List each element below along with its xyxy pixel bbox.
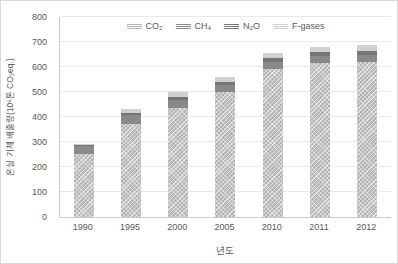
segment-F-gases [215, 77, 235, 81]
segment-CO₂ [74, 154, 94, 217]
x-tick-label: 2010 [248, 222, 295, 232]
x-axis: 1990199520002005201020112012 [59, 222, 390, 232]
stacked-bar-2010 [263, 17, 283, 217]
segment-F-gases [121, 109, 141, 113]
y-tick-label: 500 [32, 88, 47, 97]
segment-CH₄ [263, 62, 283, 69]
segment-CH₄ [215, 85, 235, 92]
x-axis-title: 년도 [59, 243, 390, 257]
x-tick-label: 1990 [59, 222, 106, 232]
segment-N₂O [263, 58, 283, 62]
y-tick-label: 300 [32, 138, 47, 147]
segment-F-gases [168, 92, 188, 97]
x-tick-label: 2011 [295, 222, 342, 232]
bar-slot-1990 [60, 17, 107, 217]
legend-label: N₂O [243, 21, 260, 31]
y-tick-label: 200 [32, 163, 47, 172]
y-tick-label: 600 [32, 63, 47, 72]
legend-label: CH₄ [194, 21, 211, 31]
bar-slot-2011 [296, 17, 343, 217]
segment-N₂O [310, 52, 330, 56]
y-axis: 0100200300400500600700800 [1, 17, 53, 217]
bar-slot-1995 [107, 17, 154, 217]
bar-slot-2005 [202, 17, 249, 217]
legend-swatch-icon [175, 23, 190, 29]
bars [60, 17, 391, 217]
segment-CH₄ [357, 55, 377, 62]
segment-N₂O [121, 113, 141, 116]
legend-item-CO₂: CO₂ [126, 21, 162, 31]
segment-CO₂ [121, 124, 141, 217]
y-tick-label: 100 [32, 188, 47, 197]
segment-CO₂ [310, 63, 330, 217]
ghg-emissions-chart: 온실 기체 배출량(10⁶톤 CO₂eq.) 01002003004005006… [0, 0, 398, 264]
segment-N₂O [215, 82, 235, 86]
stacked-bar-1990 [74, 17, 94, 217]
segment-CO₂ [263, 69, 283, 218]
segment-F-gases [74, 144, 94, 145]
legend: CO₂CH₄N₂OF-gases [126, 21, 324, 31]
legend-label: F-gases [292, 21, 325, 31]
segment-F-gases [310, 47, 330, 53]
segment-F-gases [263, 53, 283, 58]
stacked-bar-1995 [121, 17, 141, 217]
segment-N₂O [74, 145, 94, 147]
stacked-bar-2005 [215, 17, 235, 217]
segment-CO₂ [168, 108, 188, 218]
segment-CH₄ [121, 115, 141, 124]
x-tick-label: 1995 [106, 222, 153, 232]
stacked-bar-2000 [168, 17, 188, 217]
segment-CH₄ [310, 56, 330, 63]
x-tick-label: 2005 [201, 222, 248, 232]
legend-item-N₂O: N₂O [224, 21, 260, 31]
segment-N₂O [357, 51, 377, 55]
segment-CO₂ [215, 92, 235, 217]
bar-slot-2012 [344, 17, 391, 217]
bar-slot-2000 [155, 17, 202, 217]
legend-item-F-gases: F-gases [273, 21, 325, 31]
legend-label: CO₂ [145, 21, 162, 31]
y-tick-label: 400 [32, 113, 47, 122]
legend-item-CH₄: CH₄ [175, 21, 211, 31]
bar-slot-2010 [249, 17, 296, 217]
segment-F-gases [357, 45, 377, 51]
legend-swatch-icon [273, 23, 288, 29]
segment-CO₂ [357, 62, 377, 218]
segment-N₂O [168, 97, 188, 100]
stacked-bar-2012 [357, 17, 377, 217]
x-tick-label: 2012 [343, 222, 390, 232]
segment-CH₄ [168, 100, 188, 108]
stacked-bar-2011 [310, 17, 330, 217]
x-tick-label: 2000 [154, 222, 201, 232]
y-tick-label: 700 [32, 38, 47, 47]
y-tick-label: 0 [42, 213, 47, 222]
segment-CH₄ [74, 146, 94, 154]
legend-swatch-icon [224, 23, 239, 29]
legend-swatch-icon [126, 23, 141, 29]
y-tick-label: 800 [32, 13, 47, 22]
plot-area: CO₂CH₄N₂OF-gases [59, 17, 391, 218]
